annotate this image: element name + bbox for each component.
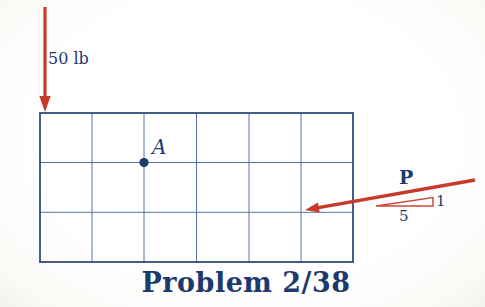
problem-figure: 50 lb A P 1 5 Problem 2/38 xyxy=(0,0,485,307)
slope-triangle xyxy=(376,198,433,207)
grid-vertical-lines xyxy=(92,113,301,262)
point-a-dot xyxy=(139,158,148,167)
grid-plate xyxy=(40,113,353,262)
problem-figure-svg: 50 lb A P 1 5 Problem 2/38 xyxy=(0,0,485,307)
force-p-arrowhead xyxy=(305,203,320,213)
force-50lb-arrowhead xyxy=(39,96,50,112)
force-p-label: P xyxy=(399,166,413,188)
figure-caption: Problem 2/38 xyxy=(141,267,350,298)
force-50lb-label: 50 lb xyxy=(48,49,89,68)
slope-run-label: 5 xyxy=(399,207,409,225)
point-a-label: A xyxy=(150,135,166,159)
slope-rise-label: 1 xyxy=(436,192,446,210)
force-p-arrow xyxy=(305,180,475,213)
